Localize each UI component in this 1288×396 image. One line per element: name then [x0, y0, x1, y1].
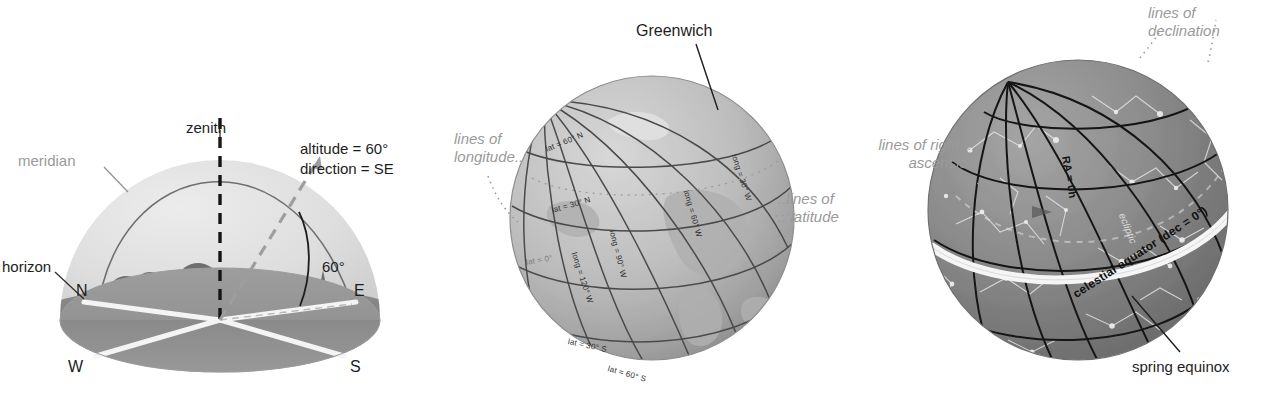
label-lines-of-longitude: lines of longitude.. [454, 130, 523, 165]
meridian-leader-line [104, 167, 128, 192]
label-horizon: horizon [2, 258, 51, 276]
label-compass-east: E [354, 282, 365, 301]
label-greenwich: Greenwich [636, 22, 712, 41]
label-zenith: zenith [186, 119, 226, 137]
label-meridian: meridian [18, 152, 76, 170]
panel-horizon-dome: zenith meridian horizon altitude = 60° d… [0, 0, 440, 396]
panel-earth-globe: Greenwich lines of longitude.. ..lines o… [440, 0, 860, 396]
label-compass-south: S [350, 358, 361, 377]
horizon-dome-drawing [0, 0, 440, 396]
label-spring-equinox: spring equinox [1132, 358, 1230, 376]
label-lines-of-declination: lines of declination [1148, 4, 1220, 39]
label-direction: direction = SE [300, 160, 394, 178]
label-altitude: altitude = 60° [300, 140, 388, 158]
label-lines-of-latitude: ..lines of .. latitude [778, 190, 839, 225]
label-altitude-angle: 60° [322, 258, 345, 276]
label-lines-of-right-ascension: lines of right.... ascension [864, 136, 976, 171]
panel-celestial-sphere: lines of declination lines of right.... … [860, 0, 1288, 396]
label-compass-north: N [76, 282, 88, 301]
label-compass-west: W [68, 358, 83, 377]
astronomy-coordinate-figure: zenith meridian horizon altitude = 60° d… [0, 0, 1288, 396]
